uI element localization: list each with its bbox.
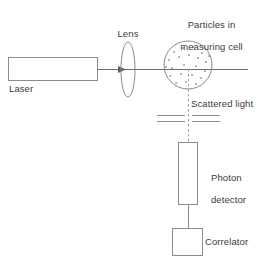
correlator-box — [173, 229, 203, 256]
correlator-label: Correlator — [205, 236, 248, 247]
measuring-cell-label-line2: measuring cell — [180, 41, 243, 52]
laser-label: Laser — [9, 83, 33, 94]
scattered-light-label: Scattered light — [191, 98, 253, 109]
photon-detector-label: Photon detector — [200, 161, 260, 216]
lens-label: Lens — [104, 28, 152, 39]
measuring-cell-label-line1: Particles in — [188, 19, 236, 30]
dls-instrument-diagram: Particles in measuring cell Lens Laser S… — [0, 0, 265, 262]
photon-detector-label-line1: Photon — [211, 172, 242, 183]
photon-detector-box — [179, 143, 198, 205]
photon-detector-label-line2: detector — [211, 194, 246, 205]
measuring-cell-label: Particles in measuring cell — [152, 8, 260, 63]
lens-ellipse — [121, 42, 135, 97]
laser-box — [9, 58, 98, 81]
